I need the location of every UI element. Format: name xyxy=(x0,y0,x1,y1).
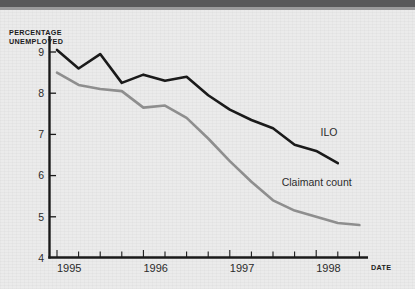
chart-figure: PERCENTAGE UNEMPLOYED 4 5 6 7 8 9 xyxy=(0,0,415,299)
y-axis-title-line2: UNEMPLOYED xyxy=(9,37,63,46)
series-label-ilo: ILO xyxy=(321,126,338,138)
x-tick-label-1995: 1995 xyxy=(57,262,81,274)
y-tick-label-7: 7 xyxy=(38,128,44,140)
x-axis-minor-ticks xyxy=(57,250,359,257)
x-tick-label-1997: 1997 xyxy=(230,262,254,274)
series-label-claimant-count: Claimant count xyxy=(282,176,352,188)
chart-panel: PERCENTAGE UNEMPLOYED 4 5 6 7 8 9 xyxy=(0,10,415,289)
series-line-ilo xyxy=(57,50,338,163)
y-tick-label-6: 6 xyxy=(38,169,44,181)
y-axis-title-line1: PERCENTAGE xyxy=(9,28,62,37)
x-tick-label-1996: 1996 xyxy=(143,262,167,274)
x-axis-tick-labels: 1995 1996 1997 1998 xyxy=(57,262,341,274)
y-tick-label-9: 9 xyxy=(38,46,44,58)
y-tick-label-5: 5 xyxy=(38,211,44,223)
bottom-white-margin xyxy=(0,289,415,299)
y-axis-tick-labels: 4 5 6 7 8 9 xyxy=(38,46,44,264)
x-axis-title: DATE xyxy=(371,263,391,272)
unemployment-line-chart: PERCENTAGE UNEMPLOYED 4 5 6 7 8 9 xyxy=(0,10,415,289)
y-tick-label-4: 4 xyxy=(38,252,44,264)
y-tick-label-8: 8 xyxy=(38,87,44,99)
x-tick-label-1998: 1998 xyxy=(316,262,340,274)
scan-top-edge-band xyxy=(0,0,415,7)
